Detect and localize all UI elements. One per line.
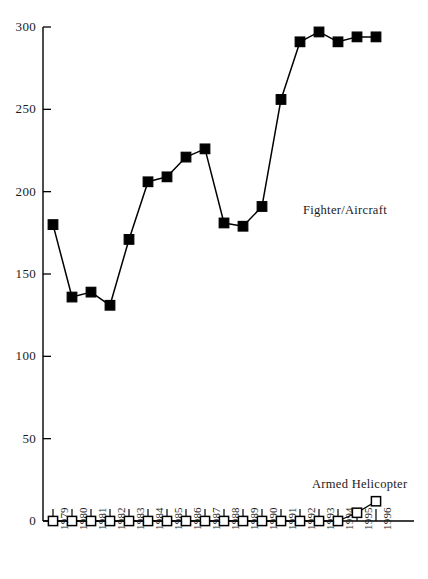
x-axis-tick-label: 1989	[248, 507, 260, 530]
x-axis-tick-label: 1995	[362, 507, 374, 530]
data-point-marker	[124, 235, 134, 245]
x-axis-tick-label: 1985	[172, 507, 184, 530]
data-point-marker	[295, 37, 305, 47]
y-axis-tick-label: 150	[2, 266, 36, 282]
y-axis-tick-label: 200	[2, 184, 36, 200]
series-layer	[48, 27, 381, 525]
x-axis-tick-label: 1980	[77, 507, 89, 530]
x-axis-tick-label: 1993	[324, 507, 336, 530]
data-point-marker	[200, 144, 210, 154]
axes-layer	[43, 27, 414, 521]
series-label-helicopter: Armed Helicopter	[312, 477, 407, 492]
chart-container: 300250200150100500 197919801981198219831…	[0, 0, 428, 579]
data-point-marker	[86, 287, 96, 297]
y-axis-tick-label: 250	[2, 101, 36, 117]
data-point-marker	[371, 497, 380, 506]
data-point-marker	[238, 221, 248, 231]
x-axis-tick-label: 1982	[115, 507, 127, 530]
x-axis-tick-label: 1984	[153, 507, 165, 530]
data-point-marker	[314, 27, 324, 37]
data-point-marker	[257, 202, 267, 212]
y-axis-tick-label: 0	[2, 513, 36, 529]
series-label-fighter: Fighter/Aircraft	[303, 203, 387, 218]
x-axis-tick-label: 1981	[96, 507, 108, 530]
data-point-marker	[105, 300, 115, 310]
x-axis-tick-label: 1988	[229, 507, 241, 530]
y-axis-tick-label: 300	[2, 19, 36, 35]
x-axis-tick-label: 1987	[210, 507, 222, 530]
data-point-marker	[352, 32, 362, 42]
data-point-marker	[67, 292, 77, 302]
data-point-marker	[219, 218, 229, 228]
x-axis-tick-label: 1986	[191, 507, 203, 530]
line-chart-plot	[0, 0, 428, 579]
x-axis-tick-label: 1983	[134, 507, 146, 530]
data-point-marker	[162, 172, 172, 182]
data-point-marker	[333, 37, 343, 47]
x-axis-tick-label: 1991	[286, 507, 298, 530]
data-point-marker	[181, 152, 191, 162]
x-axis-tick-label: 1990	[267, 507, 279, 530]
x-axis-tick-label: 1992	[305, 507, 317, 530]
x-axis-tick-label: 1994	[343, 507, 355, 530]
y-axis-tick-label: 100	[2, 348, 36, 364]
x-axis-tick-label: 1996	[381, 507, 393, 530]
y-axis-tick-label: 50	[2, 431, 36, 447]
data-point-marker	[371, 32, 381, 42]
data-point-marker	[48, 516, 57, 525]
x-axis-tick-label: 1979	[58, 507, 70, 530]
data-point-marker	[143, 177, 153, 187]
data-point-marker	[276, 95, 286, 105]
series-line-fighter	[53, 32, 376, 305]
data-point-marker	[48, 220, 58, 230]
